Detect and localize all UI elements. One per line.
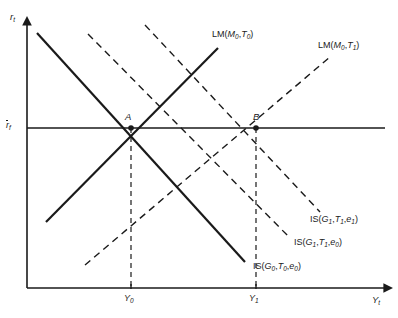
curve-label-prefix: LM( xyxy=(212,29,228,39)
curve-is-g1-t1-e1 xyxy=(145,25,320,212)
term-base: G xyxy=(306,237,313,247)
curve-lm-m0-t0 xyxy=(46,48,218,222)
y-axis-label: rt xyxy=(10,12,15,22)
curve-label-prefix: LM( xyxy=(318,40,334,50)
curve-label-is-g1-t1-e1: IS(G1,T1,e1) xyxy=(310,215,358,224)
term-sub: 0 xyxy=(341,44,345,51)
curve-label-is-g0-t0-e0: IS(G0,T0,e0) xyxy=(253,262,301,271)
term-sub: 1 xyxy=(351,218,355,225)
term-base: M xyxy=(334,40,342,50)
term-base: T xyxy=(347,40,353,50)
curve-label-is-g1-t1-e0: IS(G1,T1,e0) xyxy=(294,238,342,247)
term-sub: 0 xyxy=(283,265,287,272)
term-sub: 1 xyxy=(313,241,317,248)
curve-is-g0-t0-e0 xyxy=(37,33,245,262)
term-sub: 0 xyxy=(247,33,251,40)
y-axis-label-sub: t xyxy=(13,16,15,23)
term-sub: 1 xyxy=(353,44,357,51)
overbar xyxy=(6,120,8,121)
term-sub: 1 xyxy=(329,218,333,225)
reference-rate-sub: f xyxy=(9,124,11,131)
x-tick-label-sub: 1 xyxy=(255,297,259,304)
term-base: M xyxy=(228,29,236,39)
curve-lm-m0-t1 xyxy=(85,57,330,265)
curve-label-prefix: IS( xyxy=(294,237,306,247)
curve-label-suffix: ) xyxy=(250,29,253,39)
term-sub: 0 xyxy=(335,241,339,248)
term-sub: 0 xyxy=(235,33,239,40)
curve-label-prefix: IS( xyxy=(253,261,265,271)
x-tick-label-1: Y1 xyxy=(249,294,259,303)
point-marker-a xyxy=(128,125,134,131)
is-lm-figure: rt Yt rf LM(M0,T0)LM(M0,T1)IS(G0,T0,e0)I… xyxy=(0,0,398,318)
curve-label-suffix: ) xyxy=(339,237,342,247)
term-sub: 0 xyxy=(294,265,298,272)
x-tick-label-0: Y0 xyxy=(124,294,134,303)
term-sub: 0 xyxy=(272,265,276,272)
curve-label-lm-m0-t1: LM(M0,T1) xyxy=(318,41,359,50)
curve-label-suffix: ) xyxy=(356,40,359,50)
x-axis-label: Yt xyxy=(372,295,380,305)
term-sub: 1 xyxy=(324,241,328,248)
term-base: G xyxy=(322,214,329,224)
point-marker-b xyxy=(253,125,259,131)
point-label-a: A xyxy=(125,112,131,122)
x-axis-label-sub: t xyxy=(378,299,380,306)
curve-label-suffix: ) xyxy=(355,214,358,224)
term-base: T xyxy=(241,29,247,39)
x-tick-label-sub: 0 xyxy=(130,297,134,304)
curve-label-lm-m0-t0: LM(M0,T0) xyxy=(212,30,253,39)
term-base: G xyxy=(265,261,272,271)
point-label-b: B xyxy=(253,112,259,122)
curve-label-suffix: ) xyxy=(298,261,301,271)
term-sub: 1 xyxy=(340,218,344,225)
curve-is-g1-t1-e0 xyxy=(88,34,290,238)
reference-rate-label: rf xyxy=(6,121,11,130)
curve-label-prefix: IS( xyxy=(310,214,322,224)
